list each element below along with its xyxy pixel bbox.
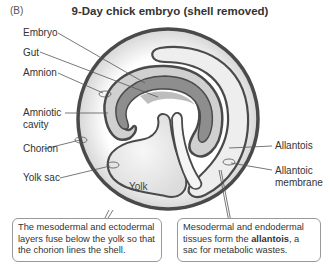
label-allantois: Allantois [275,140,313,152]
label-amniotic-cavity: Amniotic cavity [23,107,61,130]
label-gut: Gut [23,47,39,59]
callout-allantois-bold: allantois [251,234,289,244]
label-amnion: Amnion [23,67,57,79]
label-amniotic-cavity-line2: cavity [23,119,49,130]
label-allantoic-membrane: Allantoic membrane [275,165,323,188]
label-amniotic-cavity-line1: Amniotic [23,107,61,118]
callout-allantois: Mesodermal and endodermal tissues form t… [177,218,321,262]
label-yolk: Yolk [129,181,148,193]
label-chorion: Chorion [23,143,58,155]
label-embryo: Embryo [23,27,57,39]
label-yolk-sac: Yolk sac [23,172,60,184]
callout-chorion: The mesodermal and ectodermal layers fus… [12,218,162,262]
label-allantoic-membrane-line1: Allantoic [275,165,313,176]
label-allantoic-membrane-line2: membrane [275,177,323,188]
